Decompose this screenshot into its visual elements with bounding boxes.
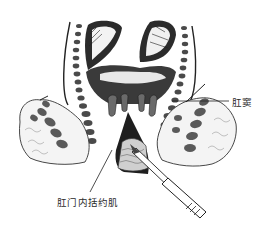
anal-canal-illustration [0, 0, 270, 235]
label-anal-sinus: 肛窦 [232, 95, 253, 109]
sphincter-leader [90, 150, 112, 192]
label-internal-anal-sphincter: 肛门内括约肌 [57, 195, 119, 209]
illustration-canvas: 肛窦 肛门内括约肌 [0, 0, 270, 235]
